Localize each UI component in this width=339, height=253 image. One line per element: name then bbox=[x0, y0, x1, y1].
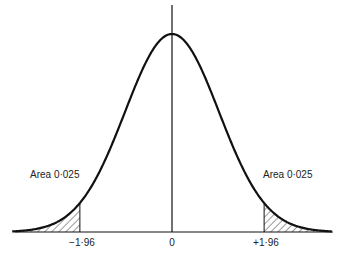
tick-label-zero: 0 bbox=[169, 237, 175, 248]
tick-label-plus-1-96: +1·96 bbox=[253, 237, 279, 248]
normal-distribution-chart bbox=[0, 0, 339, 253]
left-area-label: Area 0·025 bbox=[30, 169, 79, 180]
tick-label-minus-1-96: −1·96 bbox=[69, 237, 95, 248]
right-area-label: Area 0·025 bbox=[263, 169, 312, 180]
